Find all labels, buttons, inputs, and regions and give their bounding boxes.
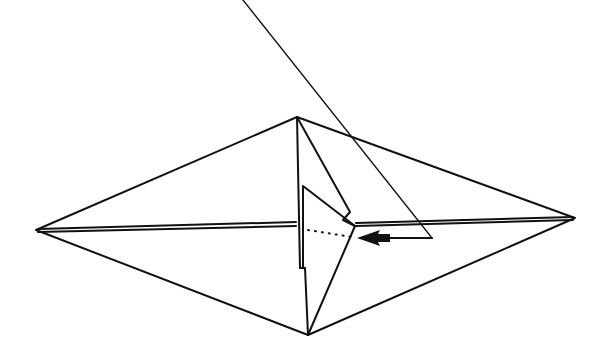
origami-diagram bbox=[0, 0, 604, 361]
fold-arrow bbox=[357, 230, 432, 246]
lower-flap bbox=[308, 226, 355, 335]
center-crease-left bbox=[38, 222, 296, 232]
inner-triangle-flap bbox=[303, 186, 355, 268]
arrow-head-icon bbox=[357, 230, 390, 246]
guide-line bbox=[243, 0, 432, 238]
dotted-fold-line bbox=[308, 230, 352, 237]
center-crease-right bbox=[356, 217, 573, 226]
upper-flap bbox=[297, 117, 355, 226]
